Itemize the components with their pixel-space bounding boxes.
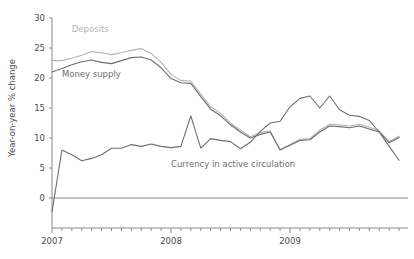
series-label: Money supply bbox=[62, 69, 121, 79]
series-line bbox=[52, 49, 399, 150]
x-axis-tick-label: 2008 bbox=[160, 236, 182, 246]
y-axis: 051015202530 bbox=[34, 13, 52, 228]
y-axis-tick-label: 5 bbox=[40, 163, 45, 173]
x-axis: 200720082009 bbox=[41, 228, 408, 246]
y-axis-tick-label: 10 bbox=[34, 133, 45, 143]
y-axis-tick-label: 0 bbox=[40, 193, 45, 203]
series-label: Currency in active circulation bbox=[171, 159, 295, 169]
y-axis-tick-label: 20 bbox=[34, 73, 45, 83]
series-line bbox=[52, 96, 399, 212]
series-label: Deposits bbox=[72, 24, 109, 34]
chart-container: 051015202530 200720082009 DepositsMoney … bbox=[0, 0, 414, 259]
y-axis-tick-label: 30 bbox=[34, 13, 45, 23]
y-axis-title-text: Year-on-year % change bbox=[7, 59, 17, 158]
y-axis-tick-label: 25 bbox=[34, 43, 45, 53]
y-axis-title: Year-on-year % change bbox=[7, 59, 17, 158]
x-axis-tick-label: 2007 bbox=[41, 236, 63, 246]
y-axis-tick-label: 15 bbox=[34, 103, 45, 113]
x-axis-tick-label: 2009 bbox=[279, 236, 301, 246]
line-chart: 051015202530 200720082009 DepositsMoney … bbox=[0, 0, 414, 259]
